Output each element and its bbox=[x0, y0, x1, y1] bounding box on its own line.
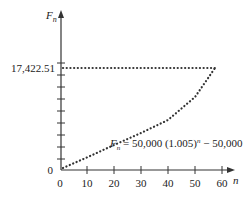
x-tick-label: 10 bbox=[82, 177, 94, 189]
x-axis-arrow-icon bbox=[227, 167, 235, 173]
x-tick-label: 50 bbox=[190, 177, 202, 189]
y-axis-arrow-icon bbox=[58, 10, 64, 18]
x-tick-label: 30 bbox=[136, 177, 148, 189]
x-axis-label: n bbox=[233, 174, 239, 186]
x-tick-label: 60 bbox=[217, 177, 229, 189]
series-fn-curve bbox=[63, 68, 215, 168]
x-tick-label: 20 bbox=[109, 177, 121, 189]
y-tick-label-zero: 0 bbox=[48, 164, 54, 176]
x-tick-label: 0 bbox=[57, 177, 63, 189]
y-axis-label: Fn bbox=[45, 9, 57, 24]
formula-annotation: Fn = 50,000 (1.005)n − 50,000 bbox=[109, 137, 243, 152]
x-tick-label: 40 bbox=[163, 177, 175, 189]
y-tick-label-top: 17,422.51 bbox=[11, 62, 55, 74]
chart: Fn 17,422.51 0 0 10 20 30 40 50 60 n Fn … bbox=[0, 0, 250, 198]
